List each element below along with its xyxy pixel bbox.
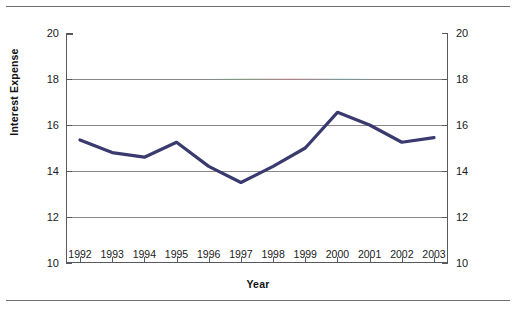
y-tick-label-right: 20: [456, 28, 482, 39]
y-tick-label-right: 12: [456, 212, 482, 223]
plot-area: [66, 33, 448, 263]
y-tick-right: [442, 263, 448, 264]
chart-page: 101214161820 101214161820 19921993199419…: [0, 0, 516, 319]
page-rule-top: [6, 6, 510, 7]
y-tick-label-left: 10: [33, 258, 59, 269]
interest-expense-series: [66, 33, 448, 263]
y-tick-label-right: 16: [456, 120, 482, 131]
y-tick-label-left: 20: [33, 28, 59, 39]
y-tick-label-right: 14: [456, 166, 482, 177]
line-chart-figure: 101214161820 101214161820 19921993199419…: [0, 12, 516, 297]
y-tick-label-right: 10: [456, 258, 482, 269]
y-axis-title: Interest Expense: [8, 32, 20, 152]
y-tick-label-left: 14: [33, 166, 59, 177]
y-tick-label-left: 12: [33, 212, 59, 223]
x-axis-title: Year: [0, 278, 516, 290]
x-tick-label: 2003: [414, 248, 454, 260]
page-rule-bottom: [6, 300, 510, 301]
y-tick-label-left: 16: [33, 120, 59, 131]
y-tick-label-right: 18: [456, 74, 482, 85]
y-tick-label-left: 18: [33, 74, 59, 85]
y-tick-left: [66, 263, 72, 264]
